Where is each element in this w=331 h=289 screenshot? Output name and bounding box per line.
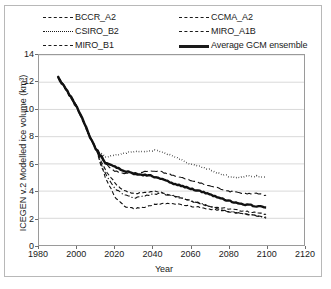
y-tick-label: 10 (24, 104, 34, 114)
y-tick-mark (35, 136, 38, 137)
series-line-csiro-b2 (58, 78, 266, 178)
x-tick-label: 2120 (295, 249, 315, 259)
x-tick-label: 2060 (181, 249, 201, 259)
x-tick-mark (229, 246, 230, 249)
x-tick-label: 2080 (219, 249, 239, 259)
plot-svg (39, 55, 304, 246)
x-tick-label: 2100 (257, 249, 277, 259)
legend-entry-csiro-b2[interactable]: CSIRO_B2 (43, 24, 119, 38)
series-line-miro-b1 (58, 77, 266, 217)
y-tick-mark (35, 109, 38, 110)
legend-entry-miro-b1[interactable]: MIRO_B1 (43, 38, 119, 52)
x-tick-mark (305, 246, 306, 249)
plot-wrapper: 02468101214 1980200020202040206020802100… (38, 54, 305, 246)
legend-entry-bccr-a2[interactable]: BCCR_A2 (43, 10, 119, 24)
y-tick-mark (35, 164, 38, 165)
y-tick-mark (35, 219, 38, 220)
series-line-average-gcm-ensemble (58, 76, 266, 207)
y-tick-label: 6 (29, 159, 34, 169)
legend-label: BCCR_A2 (75, 12, 116, 22)
y-tick-label: 14 (24, 49, 34, 59)
legend-line-dashed-icon (43, 12, 73, 23)
chart-container: BCCR_A2 CSIRO_B2 MIRO_B1 CCMA_A2 MIRO_A1… (4, 5, 322, 277)
x-tick-mark (152, 246, 153, 249)
legend-line-dotted-icon (43, 26, 73, 37)
plot-area (38, 54, 305, 246)
x-tick-label: 2000 (66, 249, 86, 259)
legend-line-dashed-icon (179, 26, 209, 37)
x-tick-label: 2020 (104, 249, 124, 259)
x-tick-mark (114, 246, 115, 249)
x-tick-mark (191, 246, 192, 249)
legend-label: MIRO_A1B (211, 26, 256, 36)
legend-line-dash-dot-icon (43, 40, 73, 51)
legend-line-solid-icon (179, 40, 209, 51)
y-tick-label: 2 (29, 214, 34, 224)
x-tick-mark (38, 246, 39, 249)
y-tick-label: 8 (29, 131, 34, 141)
x-tick-mark (76, 246, 77, 249)
y-tick-mark (35, 191, 38, 192)
legend-entry-average-gcm-ensemble[interactable]: Average GCM ensemble (179, 38, 307, 52)
y-tick-label: 4 (29, 186, 34, 196)
y-axis-title: ICEGEN v.2 Modelled ice volume (km³) (18, 58, 28, 248)
x-tick-label: 2040 (142, 249, 162, 259)
chart-legend: BCCR_A2 CSIRO_B2 MIRO_B1 CCMA_A2 MIRO_A1… (5, 10, 323, 54)
legend-label: Average GCM ensemble (211, 40, 307, 50)
legend-label: CCMA_A2 (211, 12, 253, 22)
x-tick-label: 1980 (28, 249, 48, 259)
y-tick-mark (35, 54, 38, 55)
x-axis-title: Year (5, 264, 323, 274)
legend-entry-miro-a1b[interactable]: MIRO_A1B (179, 24, 307, 38)
legend-entry-ccma-a2[interactable]: CCMA_A2 (179, 10, 307, 24)
y-tick-label: 12 (24, 76, 34, 86)
legend-column-left: BCCR_A2 CSIRO_B2 MIRO_B1 (43, 10, 119, 52)
series-line-miro-a1b (58, 77, 266, 218)
x-tick-mark (267, 246, 268, 249)
y-tick-mark (35, 81, 38, 82)
legend-line-long-dash-icon (179, 12, 209, 23)
legend-column-right: CCMA_A2 MIRO_A1B Average GCM ensemble (179, 10, 307, 52)
legend-label: MIRO_B1 (75, 40, 114, 50)
legend-label: CSIRO_B2 (75, 26, 119, 36)
